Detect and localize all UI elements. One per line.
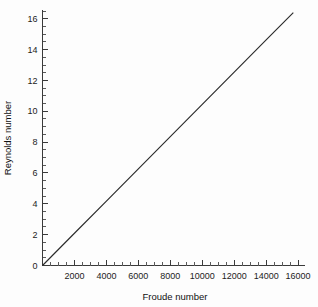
x-tick-label: 14000: [254, 271, 279, 281]
x-tick-label: 8000: [160, 271, 180, 281]
x-axis-title: Froude number: [143, 291, 208, 302]
chart-container: 0246810121416 20004000600080001000012000…: [0, 0, 318, 307]
line-chart: 0246810121416 20004000600080001000012000…: [0, 0, 318, 307]
y-tick-label: 6: [32, 168, 37, 178]
x-tick-label: 10000: [190, 271, 215, 281]
y-tick-label: 16: [27, 14, 37, 24]
x-tick-label: 16000: [286, 271, 311, 281]
x-tick-label: 12000: [222, 271, 247, 281]
y-tick-label: 10: [27, 106, 37, 116]
y-tick-label: 0: [32, 261, 37, 271]
x-tick-label: 6000: [128, 271, 148, 281]
x-tick-label: 2000: [64, 271, 84, 281]
y-tick-label: 14: [27, 45, 37, 55]
y-tick-label: 8: [32, 137, 37, 147]
y-tick-label: 2: [32, 230, 37, 240]
x-tick-label: 4000: [96, 271, 116, 281]
y-axis-title: Reynolds number: [2, 101, 13, 175]
y-tick-label: 12: [27, 76, 37, 86]
y-tick-label: 4: [32, 199, 37, 209]
